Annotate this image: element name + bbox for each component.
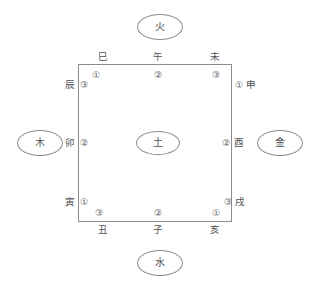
branch-label-chou: 丑 bbox=[98, 225, 108, 235]
element-ellipse-earth: 土 bbox=[136, 131, 180, 155]
element-ellipse-metal: 金 bbox=[257, 130, 303, 156]
branch-label-shen: 申 bbox=[246, 80, 256, 90]
branch-label-you: 酉 bbox=[234, 138, 244, 148]
branch-label-xu: 戌 bbox=[235, 197, 245, 207]
branch-number-mao: ② bbox=[80, 138, 88, 148]
element-ellipse-water: 水 bbox=[137, 250, 183, 276]
branch-number-you: ② bbox=[222, 138, 230, 148]
branch-label-hai: 亥 bbox=[210, 225, 220, 235]
branch-number-yin: ① bbox=[80, 197, 88, 207]
branch-label-mao: 卯 bbox=[65, 138, 75, 148]
element-label-fire: 火 bbox=[155, 22, 165, 32]
element-label-metal: 金 bbox=[275, 138, 285, 148]
element-label-earth: 土 bbox=[153, 138, 163, 148]
branch-label-zi: 子 bbox=[153, 225, 163, 235]
branch-number-hai: ① bbox=[212, 208, 220, 218]
branch-label-yin: 寅 bbox=[65, 197, 75, 207]
branch-number-shen: ① bbox=[235, 80, 243, 90]
element-ellipse-fire: 火 bbox=[137, 14, 183, 40]
branch-number-xu: ③ bbox=[224, 197, 232, 207]
branch-number-wu: ② bbox=[154, 70, 162, 80]
branch-label-si: 巳 bbox=[98, 52, 108, 62]
branch-number-zi: ② bbox=[154, 208, 162, 218]
branch-number-chen: ③ bbox=[80, 80, 88, 90]
element-label-water: 水 bbox=[155, 258, 165, 268]
diagram-canvas: 火 木 金 水 土 巳 ① 午 ② 未 ③ ① 申 ② 酉 ③ 戌 ① 亥 ② … bbox=[0, 0, 313, 289]
branch-label-wei: 未 bbox=[210, 52, 220, 62]
branch-label-chen: 辰 bbox=[65, 80, 75, 90]
branch-label-wu: 午 bbox=[153, 52, 163, 62]
branch-number-si: ① bbox=[92, 70, 100, 80]
element-label-wood: 木 bbox=[35, 138, 45, 148]
branch-number-chou: ③ bbox=[95, 208, 103, 218]
branch-number-wei: ③ bbox=[212, 70, 220, 80]
element-ellipse-wood: 木 bbox=[17, 130, 63, 156]
